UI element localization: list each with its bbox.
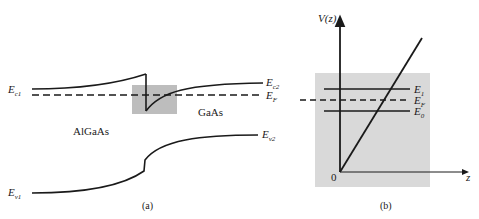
- valence-band-curve: [32, 135, 258, 193]
- label-ev2: Ev2: [261, 128, 276, 143]
- panel-b-shaded-region: [315, 73, 430, 187]
- caption-a: (a): [142, 200, 153, 212]
- panel-a: Ec1 Ec2 EF Ev1 Ev2 AlGaAs GaAs (a): [7, 74, 280, 212]
- label-z-axis: z: [465, 171, 471, 183]
- label-ev1: Ev1: [7, 186, 21, 201]
- label-v-axis: V(z): [318, 12, 337, 25]
- 2deg-shaded-region: [132, 85, 177, 114]
- caption-b: (b): [380, 200, 392, 212]
- label-origin: 0: [331, 171, 337, 183]
- label-gaas: GaAs: [198, 106, 223, 118]
- label-ec1: Ec1: [7, 83, 21, 98]
- conduction-band-left-curve: [32, 74, 146, 89]
- label-algaas: AlGaAs: [73, 125, 109, 137]
- band-diagram-figure: Ec1 Ec2 EF Ev1 Ev2 AlGaAs GaAs (a) V(z) …: [0, 0, 479, 219]
- panel-b: V(z) z 0 E1 EF E0 (b): [300, 12, 471, 212]
- label-ef-a: EF: [265, 89, 278, 104]
